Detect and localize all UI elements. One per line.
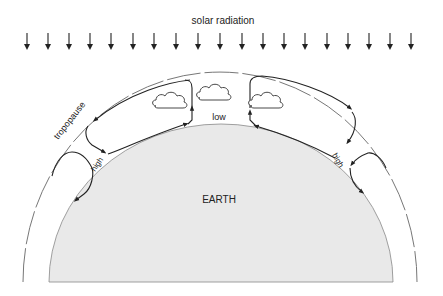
atmospheric-circulation-diagram: solar radiation xyxy=(0,0,443,296)
tropopause-label: tropopause xyxy=(52,100,88,142)
clouds xyxy=(153,84,283,108)
low-pressure-label: low xyxy=(212,112,226,122)
solar-radiation-label: solar radiation xyxy=(192,15,255,26)
solar-arrows xyxy=(24,33,414,50)
earth-label: EARTH xyxy=(202,194,236,205)
